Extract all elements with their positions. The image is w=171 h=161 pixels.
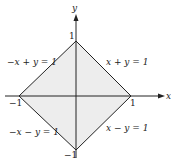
x-axis-arrow-icon	[158, 94, 165, 99]
tick-x-neg: −1	[9, 98, 22, 108]
y-axis-label: y	[71, 3, 78, 13]
tick-y-neg: −1	[64, 150, 77, 160]
tick-x-pos: 1	[130, 98, 136, 108]
diamond-diagram: y x 1 1 −1 −1 x + y = 1 −x + y = 1 −x − …	[0, 0, 171, 161]
x-axis-label: x	[166, 91, 171, 101]
tick-y-pos: 1	[69, 31, 75, 41]
equation-bottom-right: x − y = 1	[106, 123, 148, 133]
equation-top-right: x + y = 1	[106, 57, 148, 67]
y-axis-arrow-icon	[74, 14, 79, 21]
equation-top-left: −x + y = 1	[7, 57, 57, 67]
equation-bottom-left: −x − y = 1	[9, 127, 59, 137]
